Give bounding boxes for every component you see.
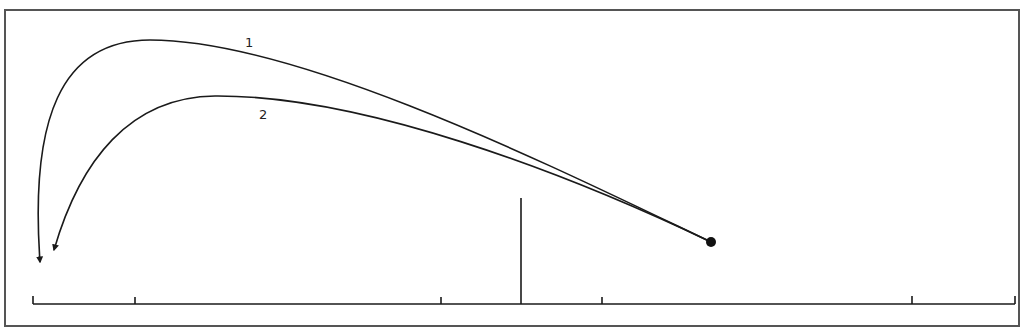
trajectory-curve-2: [54, 96, 711, 250]
start-point-dot: [706, 237, 716, 247]
frame: [5, 10, 1019, 326]
curve-label-2: 2: [259, 107, 267, 122]
baseline-axis: [33, 296, 1015, 304]
curve-label-1: 1: [245, 35, 253, 50]
trajectory-curve-1: [38, 40, 711, 262]
diagram-canvas: 1 2: [0, 0, 1024, 331]
